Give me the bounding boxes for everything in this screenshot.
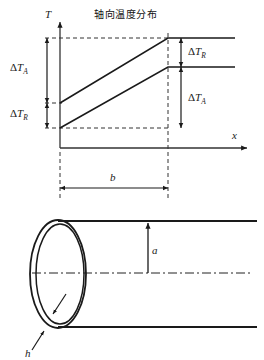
label-left-delta-ta: ΔTA xyxy=(10,62,28,76)
subscript-symbol: R xyxy=(201,51,206,60)
curve-outer-temperature xyxy=(60,38,235,103)
y-axis-label: T xyxy=(45,9,51,20)
x-axis-label: x xyxy=(232,130,237,141)
label-left-delta-tr: ΔTR xyxy=(10,108,28,122)
curve-inner-temperature xyxy=(60,67,235,128)
tube-outer-ellipse xyxy=(30,220,86,328)
label-thickness-h: h xyxy=(25,348,31,359)
technical-figure: 轴向温度分布 T x ΔTA ΔTR ΔTR ΔTA b a h xyxy=(0,0,264,360)
leader-arrow-thickness-h xyxy=(32,331,44,350)
label-radius-a: a xyxy=(152,245,158,256)
label-length-b: b xyxy=(110,172,116,183)
label-right-delta-tr: ΔTR xyxy=(188,46,206,60)
chart-title: 轴向温度分布 xyxy=(94,10,157,20)
subscript-symbol: A xyxy=(23,67,28,76)
subscript-symbol: R xyxy=(23,113,28,122)
tube-inner-ellipse xyxy=(36,224,84,324)
figure-canvas xyxy=(0,0,264,360)
leader-arrow-inner-wall xyxy=(53,294,66,314)
subscript-symbol: A xyxy=(201,97,206,106)
label-right-delta-ta: ΔTA xyxy=(188,92,206,106)
